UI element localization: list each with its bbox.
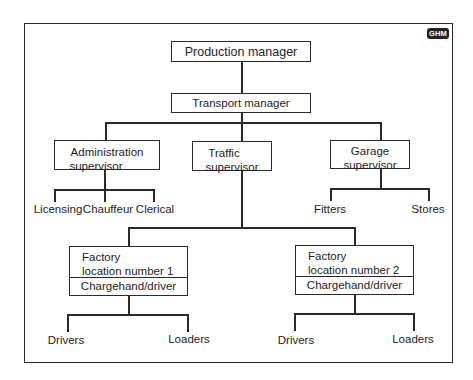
node-label-line2: supervisor	[33, 159, 159, 173]
node-role: Chargehand/driver	[307, 279, 402, 291]
node-label-line1: Administration	[55, 145, 159, 159]
connector	[54, 189, 56, 202]
connector	[105, 122, 107, 140]
connector	[428, 188, 430, 201]
connector	[187, 314, 189, 332]
ghm-badge: GHM	[427, 28, 449, 39]
connector	[241, 62, 243, 93]
diagram-frame	[24, 23, 453, 363]
connector	[380, 122, 382, 140]
node-factory-location-1: Factory location number 1 Chargehand/dri…	[69, 246, 188, 296]
leaf-clerical: Clerical	[136, 203, 174, 215]
node-label-line2: location number 2	[308, 263, 413, 277]
connector	[354, 227, 356, 245]
leaf-chauffeur: Chauffeur	[83, 203, 133, 215]
connector	[241, 171, 243, 227]
node-role: Chargehand/driver	[81, 280, 176, 292]
connector	[380, 169, 382, 188]
node-label-line1: Factory	[308, 249, 413, 263]
node-garage-supervisor: Garage supervisor	[330, 140, 410, 169]
node-traffic-supervisor: Traffic supervisor	[192, 141, 272, 171]
connector	[413, 313, 415, 331]
connector	[67, 314, 188, 316]
node-transport-manager: Transport manager	[171, 93, 311, 113]
node-label: Transport manager	[192, 96, 289, 110]
connector	[354, 295, 356, 313]
connector	[153, 189, 155, 202]
connector	[241, 122, 243, 141]
leaf-stores: Stores	[411, 203, 444, 215]
leaf-licensing: Licensing	[34, 203, 83, 215]
node-label-line1: Factory	[82, 250, 187, 264]
node-label-line2: supervisor	[193, 160, 271, 174]
node-administration-supervisor: Administration supervisor	[54, 140, 160, 170]
connector	[128, 296, 130, 314]
connector	[330, 188, 430, 190]
node-label-line1: Traffic	[177, 146, 271, 160]
node-label-line2: location number 1	[82, 264, 187, 278]
connector	[294, 313, 296, 331]
connector	[128, 227, 130, 246]
node-label-line2: supervisor	[331, 158, 409, 172]
leaf-drivers: Drivers	[48, 334, 84, 346]
connector	[67, 314, 69, 332]
leaf-loaders: Loaders	[168, 333, 210, 345]
connector	[330, 188, 332, 201]
connector	[105, 122, 381, 124]
leaf-fitters: Fitters	[314, 203, 346, 215]
connector	[104, 189, 106, 202]
connector	[128, 227, 355, 229]
node-label-line1: Garage	[331, 144, 409, 158]
node-production-manager: Production manager	[171, 41, 311, 62]
leaf-drivers: Drivers	[278, 334, 314, 346]
connector	[104, 170, 106, 189]
node-factory-location-2: Factory location number 2 Chargehand/dri…	[295, 245, 414, 295]
connector	[294, 313, 414, 315]
node-label: Production manager	[185, 45, 298, 59]
leaf-loaders: Loaders	[392, 333, 434, 345]
